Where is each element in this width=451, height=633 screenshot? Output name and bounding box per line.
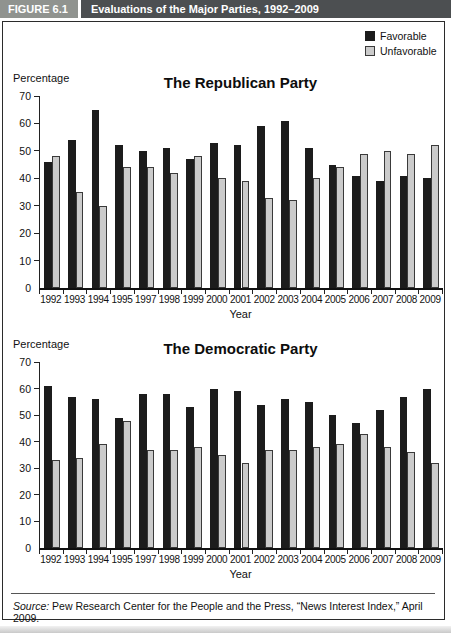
y-tick-mark	[34, 521, 39, 522]
bar-favorable-2000	[210, 143, 218, 288]
y-tick-label: 70	[5, 90, 31, 102]
x-category-label: 1992	[39, 554, 63, 565]
y-tick-mark	[34, 362, 39, 363]
x-tick-mark	[347, 290, 348, 294]
x-category-label: 1993	[63, 294, 87, 305]
y-tick-label: 50	[5, 409, 31, 421]
x-category-label: 2002	[252, 294, 276, 305]
x-category-label: 2000	[205, 554, 229, 565]
bar-favorable-2001	[234, 391, 242, 548]
bar-unfavorable-2002	[265, 450, 273, 548]
x-category-label: 1997	[134, 554, 158, 565]
bar-unfavorable-2005	[336, 167, 344, 288]
y-tick-mark	[34, 415, 39, 416]
bar-unfavorable-2007	[384, 447, 392, 548]
bar-favorable-2000	[210, 389, 218, 548]
x-tick-mark	[205, 550, 206, 554]
y-tick-label: 60	[5, 117, 31, 129]
x-category-label: 1997	[134, 294, 158, 305]
y-tick-mark	[34, 468, 39, 469]
bar-favorable-1997	[139, 394, 147, 548]
bar-favorable-2009	[423, 178, 431, 288]
x-tick-mark	[324, 550, 325, 554]
chart-title: The Republican Party	[39, 74, 442, 91]
figure-header: FIGURE 6.1 Evaluations of the Major Part…	[0, 0, 451, 18]
x-category-label: 1998	[158, 294, 182, 305]
x-tick-mark	[86, 290, 87, 294]
bar-unfavorable-2004	[313, 447, 321, 548]
y-tick-label: 70	[5, 356, 31, 368]
source-prefix: Source:	[13, 600, 49, 612]
x-category-label: 1995	[110, 554, 134, 565]
bar-unfavorable-2008	[407, 452, 415, 548]
x-category-label: 1994	[86, 294, 110, 305]
x-tick-mark	[63, 290, 64, 294]
bar-favorable-1994	[92, 399, 100, 548]
x-tick-mark	[252, 550, 253, 554]
x-tick-mark	[39, 290, 40, 294]
source-divider	[11, 593, 435, 594]
x-tick-mark	[181, 550, 182, 554]
bar-favorable-1999	[186, 407, 194, 548]
bar-unfavorable-1994	[99, 444, 107, 548]
bar-favorable-1997	[139, 151, 147, 288]
bar-favorable-2007	[376, 410, 384, 548]
x-category-label: 1992	[39, 294, 63, 305]
y-tick-mark	[34, 260, 39, 261]
bar-unfavorable-2004	[313, 178, 321, 288]
bar-favorable-2008	[400, 397, 408, 549]
x-category-label: 2008	[395, 554, 419, 565]
x-tick-mark	[395, 550, 396, 554]
bar-unfavorable-1999	[194, 447, 202, 548]
x-category-label: 2007	[371, 294, 395, 305]
bar-favorable-2002	[257, 405, 265, 549]
bar-unfavorable-1993	[76, 458, 84, 548]
x-tick-mark	[86, 550, 87, 554]
bar-unfavorable-2009	[431, 463, 439, 548]
x-category-label: 2003	[276, 294, 300, 305]
bar-unfavorable-1995	[123, 421, 131, 549]
bar-unfavorable-2009	[431, 145, 439, 288]
figure-box: Favorable Unfavorable PercentageThe Repu…	[2, 21, 445, 620]
bar-unfavorable-2000	[218, 178, 226, 288]
x-category-label: 2005	[324, 294, 348, 305]
y-tick-label: 0	[5, 542, 31, 554]
bar-unfavorable-1992	[52, 460, 60, 548]
x-tick-mark	[276, 550, 277, 554]
x-tick-mark	[181, 290, 182, 294]
y-tick-label: 60	[5, 383, 31, 395]
bar-unfavorable-1997	[147, 450, 155, 548]
bar-favorable-2002	[257, 126, 265, 288]
bar-favorable-2004	[305, 148, 313, 288]
x-tick-mark	[300, 290, 301, 294]
y-tick-label: 30	[5, 200, 31, 212]
bar-unfavorable-2005	[336, 444, 344, 548]
x-tick-mark	[158, 290, 159, 294]
bar-unfavorable-2006	[360, 154, 368, 288]
x-axis-label: Year	[39, 308, 442, 320]
figure-title: Evaluations of the Major Parties, 1992–2…	[81, 0, 451, 18]
bar-favorable-2003	[281, 121, 289, 288]
chart-title: The Democratic Party	[39, 340, 442, 357]
y-tick-mark	[34, 150, 39, 151]
x-tick-mark	[442, 290, 443, 294]
x-category-label: 1999	[181, 294, 205, 305]
x-tick-mark	[442, 550, 443, 554]
bar-unfavorable-2003	[289, 450, 297, 548]
x-category-label: 2008	[395, 294, 419, 305]
x-category-label: 2006	[347, 554, 371, 565]
y-tick-label: 10	[5, 255, 31, 267]
y-tick-label: 40	[5, 436, 31, 448]
y-tick-label: 10	[5, 515, 31, 527]
x-category-label: 2006	[347, 294, 371, 305]
x-category-label: 2009	[418, 554, 442, 565]
bar-favorable-2006	[352, 176, 360, 289]
figure-number-label: FIGURE 6.1	[0, 0, 78, 18]
x-category-label: 1993	[63, 554, 87, 565]
x-category-label: 2003	[276, 554, 300, 565]
legend-item-favorable: Favorable	[365, 30, 437, 42]
y-tick-mark	[34, 96, 39, 97]
y-tick-mark	[34, 178, 39, 179]
bar-unfavorable-2001	[242, 463, 250, 548]
x-category-label: 2007	[371, 554, 395, 565]
